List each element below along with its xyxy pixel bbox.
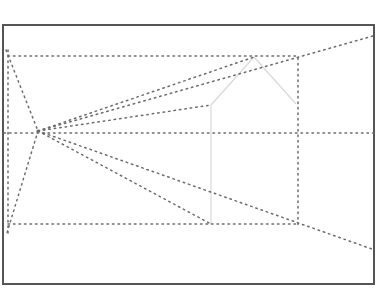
vp-to-top-right-line [38, 36, 373, 131]
roof-right-line [254, 57, 296, 104]
top-left-to-vp-line [6, 50, 38, 131]
vp-to-bottom-left-line [6, 131, 38, 236]
frame-border [3, 25, 374, 284]
vp-to-base-left-line [38, 131, 211, 224]
perspective-diagram [0, 0, 383, 300]
vp-to-eave-left-line [38, 105, 211, 131]
construction-lines [4, 36, 374, 249]
vp-to-bottom-right-line [38, 131, 372, 249]
house-outline [211, 57, 296, 224]
vanishing-point [36, 129, 39, 132]
